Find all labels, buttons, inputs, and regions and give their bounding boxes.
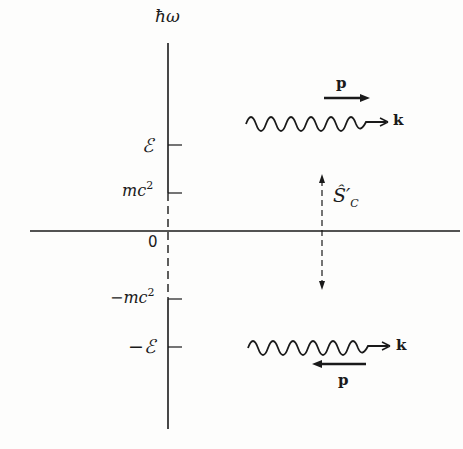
energy-level-label: ℰ bbox=[142, 136, 154, 155]
neg-rest-mass-exponent: 2 bbox=[148, 286, 155, 299]
y-axis-label: ħω bbox=[155, 8, 180, 25]
neg-rest-mass-text: −mc bbox=[110, 288, 148, 307]
wavevector-label-lower: k bbox=[396, 338, 406, 353]
wavevector-label-upper: k bbox=[393, 113, 403, 128]
momentum-label-lower: p bbox=[338, 373, 349, 388]
neg-rest-mass-label: −mc2 bbox=[110, 290, 155, 306]
neg-energy-level-label: −ℰ bbox=[128, 337, 156, 356]
positive-energy-wave bbox=[246, 117, 386, 131]
rest-mass-text: mc bbox=[122, 181, 146, 200]
momentum-arrowhead-left bbox=[312, 360, 322, 368]
negative-energy-wave bbox=[248, 341, 388, 355]
rest-mass-exponent: 2 bbox=[146, 179, 153, 192]
operator-subscript: C bbox=[350, 197, 358, 210]
origin-label: 0 bbox=[148, 235, 158, 250]
energy-diagram: ħω ℰ mc2 0 −mc2 −ℰ p k p k Ŝ′C bbox=[0, 0, 463, 449]
operator-symbol: Ŝ bbox=[333, 184, 346, 206]
rest-mass-label: mc2 bbox=[122, 183, 153, 199]
charge-conjugation-operator: Ŝ′C bbox=[333, 186, 359, 209]
conjugation-arrowhead-down bbox=[319, 281, 325, 290]
conjugation-arrowhead-up bbox=[319, 174, 325, 183]
momentum-arrowhead-right bbox=[360, 94, 370, 102]
momentum-label-upper: p bbox=[336, 76, 347, 91]
diagram-graphics bbox=[0, 0, 463, 449]
